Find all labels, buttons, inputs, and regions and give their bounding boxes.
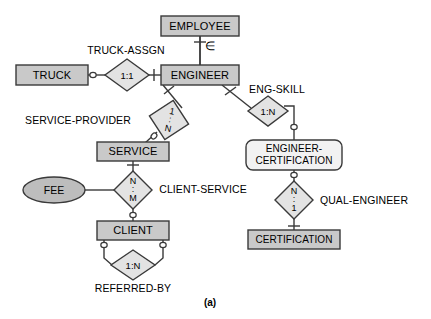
entity-client-label: CLIENT [113,224,153,236]
entity-engineer-certification-label-line1: ENGINEER- [266,143,322,154]
relationship-truck-assgn-cardinality: 1:1 [120,70,133,81]
attribute-fee-label: FEE [44,184,64,196]
subset-icon: ∈ [205,39,215,53]
er-diagram: EMPLOYEE TRUCK ENGINEER SERVICE CLIENT C… [0,0,431,319]
relationship-referred-by[interactable]: 1:N REFERRED-BY [95,250,171,294]
entity-engineer[interactable]: ENGINEER [161,65,239,85]
relationship-eng-skill-label: ENG-SKILL [249,83,305,95]
entity-client[interactable]: CLIENT [97,221,169,240]
relationship-client-service-cardinality-bottom: M [129,193,137,203]
entity-engineer-certification[interactable]: ENGINEER- CERTIFICATION [246,140,342,170]
entity-employee-label: EMPLOYEE [169,20,230,32]
connection-client-referredby-right [155,240,166,265]
relationship-qual-engineer-cardinality-bottom: 1 [291,203,296,213]
entity-service-label: SERVICE [109,145,158,157]
entity-certification[interactable]: CERTIFICATION [248,230,340,249]
connection-client-referredby-left [101,240,112,265]
connection-qual-certification [288,219,300,230]
relationship-qual-engineer[interactable]: N : 1 QUAL-ENGINEER [275,181,408,219]
relationship-eng-skill[interactable]: 1:N ENG-SKILL [248,83,305,126]
attribute-fee[interactable]: FEE [23,177,85,203]
attribute-layer: FEE [23,177,85,203]
relationship-truck-assgn[interactable]: 1:1 TRUCK-ASSGN [87,44,165,91]
entity-employee[interactable]: EMPLOYEE [161,16,239,36]
entity-truck[interactable]: TRUCK [16,65,88,85]
figure-caption: (a) [204,297,216,308]
entity-service[interactable]: SERVICE [97,142,169,161]
entity-engineer-certification-label-line2: CERTIFICATION [255,155,332,166]
er-diagram-canvas: EMPLOYEE TRUCK ENGINEER SERVICE CLIENT C… [0,0,431,319]
entity-truck-label: TRUCK [33,69,72,81]
subset-symbol-group: ∈ [205,39,215,53]
relationship-service-provider[interactable]: 1 : N SERVICE-PROVIDER [25,96,193,143]
connection-truck-truckassgn [88,72,105,77]
entity-certification-label: CERTIFICATION [255,234,332,245]
entity-engineer-label: ENGINEER [171,69,229,81]
relationship-service-provider-label: SERVICE-PROVIDER [25,114,131,126]
relationship-referred-by-cardinality: 1:N [126,260,141,271]
relationship-truck-assgn-label: TRUCK-ASSGN [87,44,165,56]
relationship-client-service-label: CLIENT-SERVICE [159,183,247,195]
relationship-qual-engineer-label: QUAL-ENGINEER [320,194,409,206]
connection-truckassgn-engineer [149,69,161,81]
relationship-client-service[interactable]: N : M CLIENT-SERVICE [114,171,247,209]
relationship-referred-by-label: REFERRED-BY [95,282,171,294]
connection-engineer-engskill [222,85,251,108]
relationship-eng-skill-cardinality: 1:N [261,106,276,117]
